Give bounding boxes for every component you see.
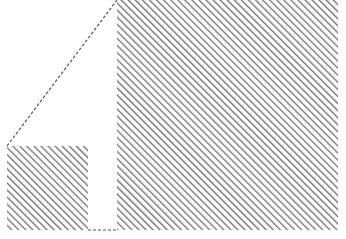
diagram-canvas [0,0,346,239]
large-block [117,0,338,230]
diagonal-edge [7,0,117,146]
small-block [7,146,88,230]
